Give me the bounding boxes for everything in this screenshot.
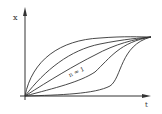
curves	[25, 37, 151, 96]
x-axis-arrow-icon	[142, 94, 151, 98]
curve-label: n = 1	[67, 65, 85, 78]
curve-5	[25, 37, 151, 96]
curve-1	[25, 37, 151, 96]
curve-n1	[25, 37, 151, 96]
x-axis-label: t	[145, 101, 148, 109]
curve-2	[25, 37, 151, 96]
y-axis-arrow-icon	[23, 7, 27, 16]
diagram: x t n = 1	[0, 0, 162, 114]
y-axis-label: x	[13, 13, 18, 22]
curve-4	[25, 37, 151, 96]
